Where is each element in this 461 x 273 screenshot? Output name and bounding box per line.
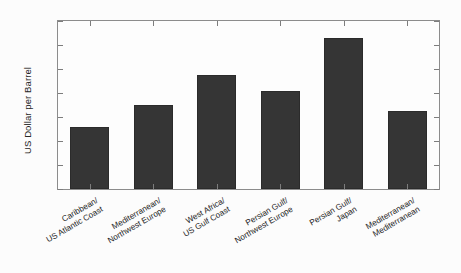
x-axis-tick-mark-top <box>344 21 345 26</box>
x-axis-tick-mark <box>280 184 281 189</box>
y-axis-tick-mark-right <box>434 165 439 166</box>
y-axis-title: US Dollar per Barrel <box>22 26 33 196</box>
y-axis-tick-mark <box>58 165 63 166</box>
bar <box>134 105 173 189</box>
x-axis-tick-mark-top <box>407 21 408 26</box>
bar <box>324 38 363 189</box>
x-axis-tick-labels: Caribbean/US Atlantic CoastMediterranean… <box>57 190 440 273</box>
x-axis-tick-mark-top <box>280 21 281 26</box>
y-axis-tick-mark <box>58 93 63 94</box>
y-axis-tick-mark <box>58 141 63 142</box>
x-axis-tick-mark <box>344 184 345 189</box>
bar <box>70 127 109 189</box>
x-axis-tick-mark <box>90 184 91 189</box>
y-axis-tick-mark <box>58 117 63 118</box>
plot-inner: 00.511.522.533.5 <box>58 21 439 189</box>
y-axis-tick-mark <box>58 45 63 46</box>
y-axis-tick-mark-right <box>434 117 439 118</box>
x-axis-tick-mark-top <box>90 21 91 26</box>
y-axis-tick-mark-right <box>434 93 439 94</box>
bar <box>197 75 236 189</box>
y-axis-tick-mark <box>58 69 63 70</box>
bar <box>261 91 300 189</box>
chart-figure: US Dollar per Barrel 00.511.522.533.5 Ca… <box>0 0 461 273</box>
x-axis-tick-mark <box>217 184 218 189</box>
bar <box>388 111 427 189</box>
x-axis-tick-mark-top <box>153 21 154 26</box>
y-axis-tick-mark-right <box>434 141 439 142</box>
y-axis-tick-mark <box>58 21 63 22</box>
x-axis-tick-mark <box>153 184 154 189</box>
y-axis-tick-mark-right <box>434 45 439 46</box>
x-axis-tick-mark-top <box>217 21 218 26</box>
y-axis-tick-mark-right <box>434 69 439 70</box>
x-axis-tick-mark <box>407 184 408 189</box>
y-axis-tick-mark-right <box>434 21 439 22</box>
plot-area: 00.511.522.533.5 <box>57 20 440 190</box>
